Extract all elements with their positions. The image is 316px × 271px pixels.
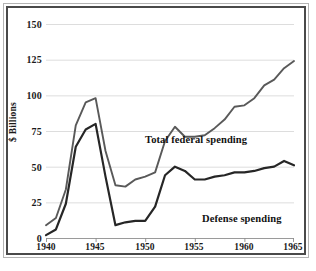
- x-tick-1955: 1955: [171, 243, 217, 253]
- y-tick-75: 75: [2, 127, 42, 137]
- series-label-total-federal-spending: Total federal spending: [145, 134, 247, 145]
- figure-root: $ Billions 150 125 100 75 50 25 0 1940 1…: [0, 0, 316, 271]
- y-axis-tick-labels: 150 125 100 75 50 25 0: [0, 0, 42, 271]
- x-tick-1950: 1950: [122, 243, 168, 253]
- plot-area: Total federal spending Defense spending: [46, 24, 294, 238]
- gridlines: [46, 25, 294, 239]
- y-tick-100: 100: [2, 91, 42, 101]
- x-axis-tick-labels: 1940 1945 1950 1955 1960 1965: [46, 243, 294, 259]
- chart-canvas: [46, 24, 294, 238]
- y-tick-150: 150: [2, 20, 42, 30]
- x-tick-1940: 1940: [23, 243, 69, 253]
- y-tick-25: 25: [2, 198, 42, 208]
- y-tick-125: 125: [2, 55, 42, 65]
- series-label-defense-spending: Defense spending: [202, 213, 281, 224]
- x-tick-1965: 1965: [270, 243, 316, 253]
- y-tick-50: 50: [2, 163, 42, 173]
- x-tick-1960: 1960: [221, 243, 267, 253]
- x-tick-1945: 1945: [72, 243, 118, 253]
- series-lines: [46, 61, 294, 235]
